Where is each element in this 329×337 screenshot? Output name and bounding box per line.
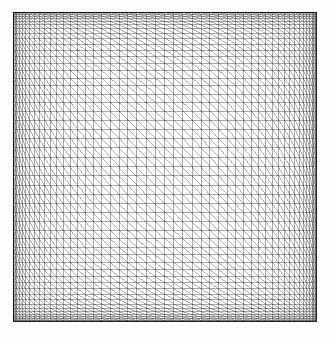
mesh-figure: Graded triangular finite element mesh: [0, 0, 329, 337]
mesh-plot: [0, 0, 329, 337]
